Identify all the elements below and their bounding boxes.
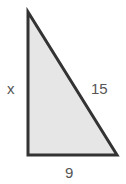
triangle-diagram: x 15 9 — [0, 0, 126, 184]
bottom-side-label: 9 — [65, 164, 73, 181]
hypotenuse-label: 15 — [91, 80, 108, 97]
left-side-label: x — [7, 80, 15, 97]
